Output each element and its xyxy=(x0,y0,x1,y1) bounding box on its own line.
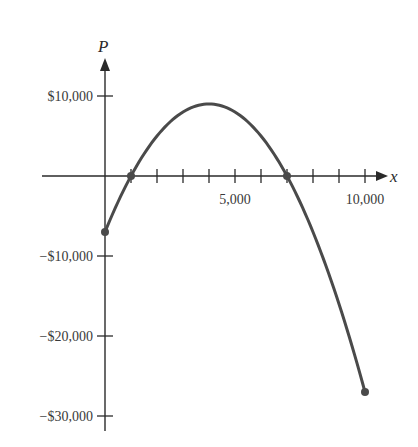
x-tick-label: 10,000 xyxy=(346,192,385,207)
y-tick-label: −$10,000 xyxy=(40,249,93,264)
y-tick-label: $10,000 xyxy=(48,89,94,104)
profit-curve xyxy=(105,104,365,392)
x-axis-title: x xyxy=(389,167,398,186)
data-point xyxy=(101,228,109,236)
y-tick-label: −$20,000 xyxy=(40,329,93,344)
y-tick-label: −$30,000 xyxy=(40,409,93,424)
x-tick-label: 5,000 xyxy=(219,192,251,207)
tick-labels: 5,00010,000$10,000−$10,000−$20,000−$30,0… xyxy=(40,89,385,424)
data-point xyxy=(127,172,135,180)
ticks xyxy=(97,96,365,416)
axes xyxy=(42,58,388,431)
data-point xyxy=(361,388,369,396)
data-point xyxy=(283,172,291,180)
profit-chart: 5,00010,000$10,000−$10,000−$20,000−$30,0… xyxy=(0,0,418,447)
y-axis-arrow-icon xyxy=(100,58,110,71)
x-axis-arrow-icon xyxy=(376,171,388,181)
y-axis-title: P xyxy=(97,37,108,56)
